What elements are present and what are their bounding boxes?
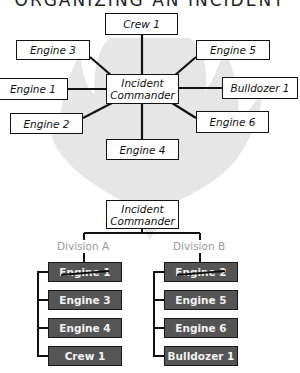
- division-b-label: Division B: [173, 240, 225, 252]
- resource-crew-1: Crew 1: [105, 13, 178, 35]
- commander-line1: Incident: [121, 203, 163, 215]
- member-label: Engine 4: [59, 322, 110, 334]
- resource-engine-1: Engine 1: [0, 78, 68, 100]
- resource-label: Crew 1: [123, 18, 160, 30]
- incident-commander-bottom: Incident Commander: [106, 200, 179, 229]
- member-label: Engine 5: [175, 294, 226, 306]
- incident-commander-top: Incident Commander: [106, 74, 179, 104]
- resource-engine-5: Engine 5: [196, 40, 270, 60]
- member-label: Crew 1: [65, 350, 106, 362]
- resource-bulldozer-1: Bulldozer 1: [222, 77, 298, 99]
- commander-line2: Commander: [110, 89, 175, 101]
- division-a-supervisor: Engine 1: [48, 262, 122, 282]
- member-label: Engine 6: [175, 322, 226, 334]
- division-a-label: Division A: [57, 240, 109, 252]
- division-b-supervisor: Engine 2: [164, 262, 238, 282]
- member-label: Engine 3: [59, 294, 110, 306]
- resource-label: Engine 1: [10, 83, 56, 95]
- division-a-member: Engine 4: [48, 318, 122, 338]
- commander-line1: Incident: [121, 77, 163, 89]
- resource-label: Engine 2: [23, 118, 69, 130]
- resource-label: Engine 4: [119, 144, 165, 156]
- division-b-member: Engine 5: [164, 290, 238, 310]
- commander-line2: Commander: [110, 215, 175, 227]
- division-b-member: Bulldozer 1: [164, 346, 238, 366]
- resource-label: Bulldozer 1: [230, 82, 289, 94]
- division-b-member: Engine 6: [164, 318, 238, 338]
- resource-label: Engine 5: [210, 44, 256, 56]
- resource-label: Engine 6: [209, 116, 255, 128]
- resource-engine-3: Engine 3: [16, 40, 90, 60]
- resource-engine-6: Engine 6: [196, 111, 269, 133]
- resource-engine-4: Engine 4: [106, 139, 179, 160]
- resource-engine-2: Engine 2: [10, 113, 83, 134]
- member-label: Bulldozer 1: [168, 350, 235, 362]
- resource-label: Engine 3: [30, 44, 76, 56]
- division-a-member: Crew 1: [48, 346, 122, 366]
- division-a-member: Engine 3: [48, 290, 122, 310]
